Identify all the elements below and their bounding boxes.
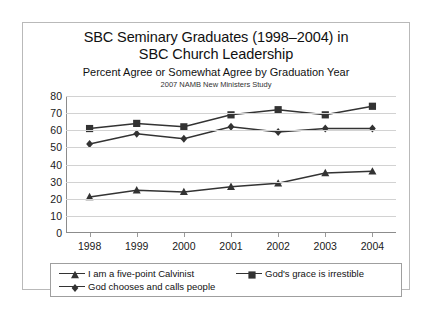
gridline-10 xyxy=(66,216,396,217)
y-tick-label-10: 10 xyxy=(50,211,62,222)
data-point-3-2003 xyxy=(322,125,329,133)
x-tick-mark-2002 xyxy=(278,233,279,237)
x-tick-mark-1998 xyxy=(90,233,91,237)
gridline-80 xyxy=(66,96,396,97)
x-tick-mark-2001 xyxy=(231,233,232,237)
x-axis-labels: 1998199920002001200220032004 xyxy=(66,240,396,256)
y-tick-label-40: 40 xyxy=(50,159,62,170)
x-tick-mark-2003 xyxy=(325,233,326,237)
x-tick-mark-2004 xyxy=(372,233,373,237)
legend-label-1: I am a five-point Calvinist xyxy=(88,268,194,279)
chart-frame: SBC Seminary Graduates (1998–2004) in SB… xyxy=(22,22,410,290)
legend-label-2: God's grace is irrestible xyxy=(265,268,364,279)
chart-title-line-2: SBC Church Leadership xyxy=(23,46,409,63)
x-tick-label-2004: 2004 xyxy=(361,240,384,252)
y-tick-label-0: 0 xyxy=(56,228,62,239)
y-tick-label-70: 70 xyxy=(50,108,62,119)
gridline-40 xyxy=(66,165,396,166)
gridline-30 xyxy=(66,182,396,183)
legend-marker-triangle-icon xyxy=(59,269,85,279)
chart-title-line-1: SBC Seminary Graduates (1998–2004) in xyxy=(23,29,409,46)
data-point-3-2000 xyxy=(180,135,187,143)
data-point-2-1999 xyxy=(133,120,140,127)
x-tick-label-2002: 2002 xyxy=(266,240,289,252)
series-1 xyxy=(86,167,377,200)
gridline-70 xyxy=(66,113,396,114)
x-tick-label-2003: 2003 xyxy=(314,240,337,252)
legend-marker-square-icon xyxy=(236,269,262,279)
x-tick-mark-2000 xyxy=(184,233,185,237)
legend-item-2: God's grace is irrestible xyxy=(236,268,364,279)
y-tick-label-50: 50 xyxy=(50,142,62,153)
x-tick-label-1999: 1999 xyxy=(125,240,148,252)
x-tick-label-2001: 2001 xyxy=(219,240,242,252)
data-point-2-2004 xyxy=(369,103,376,110)
y-tick-label-30: 30 xyxy=(50,176,62,187)
chart-title-block: SBC Seminary Graduates (1998–2004) in SB… xyxy=(23,29,409,90)
plot-area xyxy=(66,96,396,233)
legend-item-1: I am a five-point Calvinist xyxy=(59,268,194,279)
legend-marker-diamond-icon xyxy=(59,282,85,292)
y-tick-label-80: 80 xyxy=(50,91,62,102)
data-point-2-1998 xyxy=(86,125,93,132)
x-tick-mark-1999 xyxy=(137,233,138,237)
y-axis-labels: 01020304050607080 xyxy=(38,96,62,233)
plot-wrapper: 01020304050607080 1998199920002001200220… xyxy=(38,96,396,261)
gridline-20 xyxy=(66,199,396,200)
y-tick-label-60: 60 xyxy=(50,125,62,136)
legend-item-3: God chooses and calls people xyxy=(59,281,215,292)
chart-legend: I am a five-point CalvinistGod's grace i… xyxy=(50,263,402,297)
legend-label-3: God chooses and calls people xyxy=(88,281,215,292)
data-point-3-2004 xyxy=(369,125,376,133)
chart-source-note: 2007 NAMB New Ministers Study xyxy=(23,80,409,90)
gridline-50 xyxy=(66,147,396,148)
y-tick-label-20: 20 xyxy=(50,194,62,205)
x-tick-label-2000: 2000 xyxy=(172,240,195,252)
series-3 xyxy=(86,123,376,148)
gridline-60 xyxy=(66,130,396,131)
chart-subtitle: Percent Agree or Somewhat Agree by Gradu… xyxy=(23,65,409,79)
x-tick-label-1998: 1998 xyxy=(78,240,101,252)
